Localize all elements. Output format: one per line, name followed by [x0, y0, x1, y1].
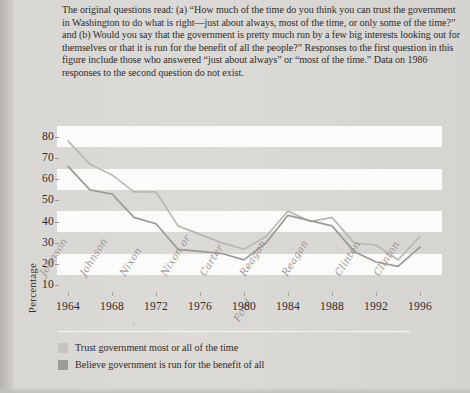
x-tick-label: 1968: [100, 300, 124, 312]
y-tick-mark: [55, 158, 59, 159]
y-tick-label: 70: [18, 152, 54, 164]
y-tick-mark: [55, 179, 59, 180]
x-tick-mark: [112, 292, 113, 296]
y-tick-mark: [55, 264, 59, 265]
scan-edge-bottom: [0, 387, 470, 393]
figure-caption: The original questions read: (a) “How mu…: [62, 4, 460, 79]
y-axis-ticks: 8070605040302010: [18, 112, 54, 327]
x-tick-mark: [288, 292, 289, 296]
chart-legend: Trust government most or all of the time…: [58, 339, 398, 373]
caption-text: The original questions read: (a) “How mu…: [62, 4, 460, 79]
x-tick-label: 1972: [144, 300, 168, 312]
x-tick-mark: [68, 292, 69, 296]
x-tick-mark: [420, 292, 421, 296]
legend-label: Trust government most or all of the time: [75, 342, 238, 353]
legend-item: Believe government is run for the benefi…: [58, 356, 398, 373]
x-tick-mark: [244, 292, 245, 296]
legend-label: Believe government is run for the benefi…: [75, 359, 264, 370]
chart-figure: Percentage 8070605040302010 JohnsonJohns…: [0, 112, 470, 327]
legend-item: Trust government most or all of the time: [58, 339, 398, 356]
x-tick-label: 1980: [232, 300, 256, 312]
x-tick-label: 1976: [188, 300, 212, 312]
x-tick-mark: [156, 292, 157, 296]
y-tick-mark: [55, 243, 59, 244]
y-tick-label: 10: [18, 279, 54, 291]
y-tick-label: 50: [18, 194, 54, 206]
y-tick-label: 80: [18, 131, 54, 143]
x-tick-label: 1996: [408, 300, 432, 312]
y-tick-label: 60: [18, 173, 54, 185]
x-tick-label: 1988: [320, 300, 344, 312]
y-tick-mark: [55, 137, 59, 138]
x-tick-label: 1992: [364, 300, 388, 312]
legend-swatch: [58, 360, 68, 370]
legend-divider: [58, 331, 410, 332]
x-tick-label: 1984: [276, 300, 300, 312]
y-tick-mark: [55, 222, 59, 223]
x-tick-label: 1964: [56, 300, 80, 312]
president-annotations: JohnsonJohnsonNixonNixon orFordCarterRea…: [57, 212, 442, 298]
x-tick-mark: [332, 292, 333, 296]
x-tick-mark: [376, 292, 377, 296]
legend-swatch: [58, 343, 68, 353]
y-tick-mark: [55, 285, 59, 286]
x-tick-mark: [200, 292, 201, 296]
y-tick-mark: [55, 200, 59, 201]
x-axis-ticks: 196419681972197619801984198819921996: [0, 298, 470, 322]
